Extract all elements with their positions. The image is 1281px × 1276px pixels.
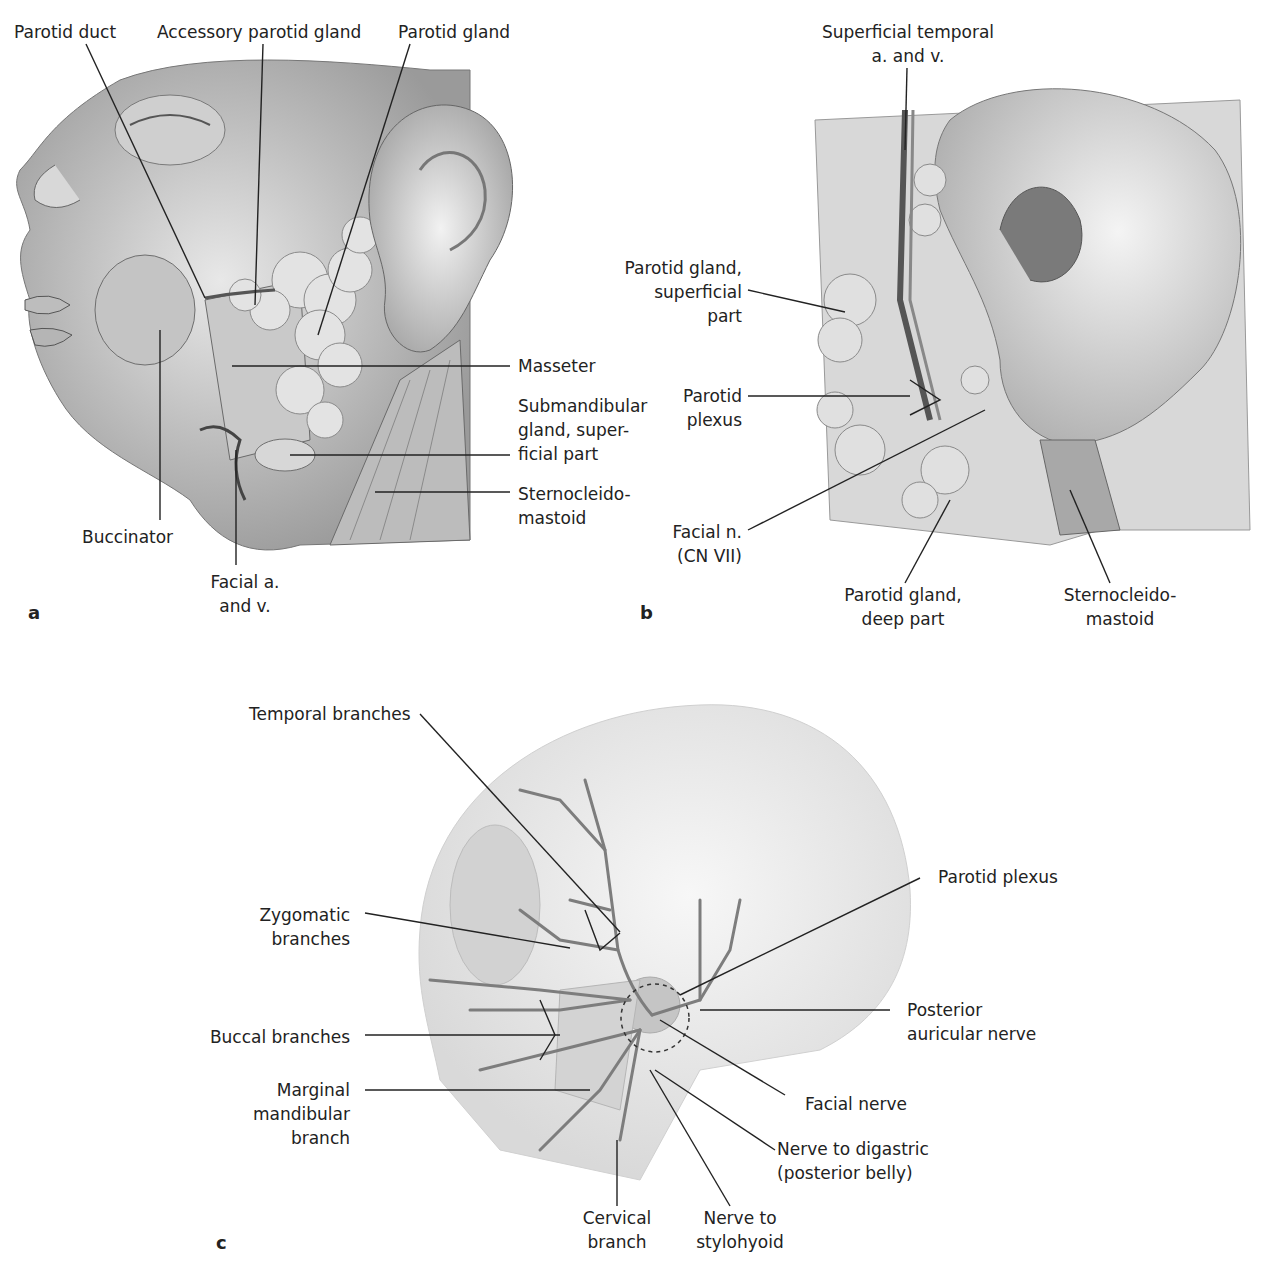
- panel-b: Superficial temporal a. and v. Parotid g…: [0, 0, 1281, 640]
- label-nerve-to-stylohyoid: Nerve to stylohyoid: [690, 1206, 790, 1254]
- label-facial-nerve: Facial nerve: [805, 1092, 907, 1116]
- label-temporal-branches: Temporal branches: [249, 702, 411, 726]
- label-zygomatic-branches: Zygomatic branches: [230, 903, 350, 951]
- panel-letter-c: c: [216, 1232, 227, 1253]
- label-superficial-temporal-vessels: Superficial temporal a. and v.: [808, 20, 1008, 68]
- panel-c: Temporal branches Zygomatic branches Buc…: [0, 650, 1281, 1276]
- label-parotid-gland-superficial: Parotid gland, superficial part: [600, 256, 742, 328]
- label-cervical-branch: Cervical branch: [572, 1206, 662, 1254]
- skull-facial-nerve-illustration: [0, 650, 1281, 1276]
- label-parotid-plexus-c: Parotid plexus: [938, 865, 1058, 889]
- label-buccal-branches: Buccal branches: [200, 1025, 350, 1049]
- label-posterior-auricular-nerve: Posterior auricular nerve: [907, 998, 1036, 1046]
- label-parotid-gland-deep: Parotid gland, deep part: [828, 583, 978, 631]
- label-nerve-to-digastric: Nerve to digastric (posterior belly): [777, 1137, 929, 1185]
- label-sternocleidomastoid-b: Sternocleido- mastoid: [1050, 583, 1190, 631]
- label-marginal-mandibular-branch: Marginal mandibular branch: [230, 1078, 350, 1150]
- label-facial-nerve-cn7: Facial n. (CN VII): [640, 520, 742, 568]
- panel-letter-b: b: [640, 602, 653, 623]
- label-parotid-plexus-b: Parotid plexus: [640, 384, 742, 432]
